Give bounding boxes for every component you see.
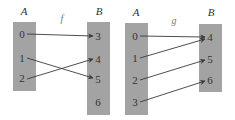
codomain-element-6: 6	[207, 74, 213, 86]
codomain-element-3: 3	[95, 30, 101, 42]
diagram-f: A B f 0 1 2 3 4 5 6	[13, 5, 110, 115]
codomain-element-5: 5	[95, 73, 101, 85]
mapping-arrow-3-to-6	[140, 81, 205, 102]
domain-element-0: 0	[132, 30, 138, 42]
domain-element-2: 2	[19, 72, 25, 84]
codomain-element-4: 4	[207, 31, 213, 43]
domain-label-g: A	[132, 6, 140, 18]
codomain-element-6: 6	[95, 96, 101, 108]
mapping-arrow-2-to-4	[27, 59, 93, 79]
codomain-element-5: 5	[207, 53, 213, 65]
function-mapping-diagrams: A B f 0 1 2 3 4 5 6 A B g 0 1 2 3 4	[0, 0, 235, 120]
function-label-g: g	[172, 15, 177, 26]
codomain-label-f: B	[96, 5, 103, 17]
domain-element-1: 1	[132, 52, 138, 64]
function-label-f: f	[61, 13, 65, 24]
domain-element-1: 1	[19, 52, 25, 64]
domain-element-0: 0	[19, 28, 25, 40]
mapping-arrow-0-to-3	[27, 34, 93, 36]
mapping-arrow-1-to-5	[27, 58, 93, 78]
mapping-arrow-0-to-4	[140, 36, 205, 37]
codomain-label-g: B	[208, 6, 215, 18]
domain-label-f: A	[20, 5, 28, 17]
codomain-element-4: 4	[95, 53, 101, 65]
domain-element-3: 3	[132, 96, 138, 108]
mapping-arrow-2-to-5	[140, 60, 205, 80]
diagram-g: A B g 0 1 2 3 4 5 6	[125, 6, 222, 115]
domain-element-2: 2	[132, 74, 138, 86]
mapping-arrow-1-to-4	[140, 39, 205, 58]
